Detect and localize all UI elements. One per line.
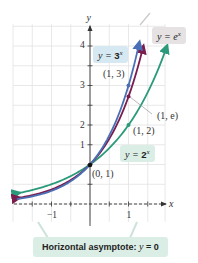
- y-tick-label-2: 2: [80, 120, 85, 130]
- callout-2x-exp: x: [146, 148, 149, 156]
- callout-ex-prefix: y =: [157, 31, 173, 42]
- label-point-1-e: (1, e): [157, 110, 178, 122]
- leader-line-ex-callout: [140, 13, 150, 25]
- point-1-e: [127, 95, 131, 99]
- asymptote-label: Horizontal asymptote:: [42, 242, 139, 252]
- callout-2-to-x: y = 2x: [120, 145, 155, 162]
- label-point-1-3: (1, 3): [103, 68, 125, 80]
- x-tick-label-1: 1: [127, 210, 132, 220]
- x-axis-label: x: [168, 198, 174, 209]
- asymptote-eq: = 0: [143, 242, 158, 252]
- label-point-0-1: (0, 1): [92, 168, 114, 180]
- callout-3-to-x: y = 3x: [93, 46, 128, 63]
- leader-line-asym-left: [38, 222, 48, 238]
- y-tick-label-1: 1: [80, 140, 85, 150]
- point-1-3: [127, 84, 131, 88]
- x-tick-label-neg1: −1: [47, 210, 57, 220]
- leader-line-asym-right: [130, 222, 137, 238]
- callout-e-to-x: y = ex: [152, 27, 186, 44]
- callout-3x-exp: x: [119, 49, 122, 57]
- y-axis-label: y: [86, 12, 92, 23]
- callout-3x-prefix: y =: [98, 50, 114, 61]
- asymptote-callout: Horizontal asymptote: y = 0: [33, 237, 168, 257]
- y-tick-label-4: 4: [80, 40, 85, 50]
- point-1-2: [127, 123, 131, 127]
- callout-ex-exp: x: [178, 30, 181, 38]
- y-tick-label-3: 3: [80, 80, 85, 90]
- callout-2x-prefix: y =: [125, 149, 141, 160]
- point-0-1: [88, 163, 93, 168]
- label-point-1-2: (1, 2): [133, 125, 155, 137]
